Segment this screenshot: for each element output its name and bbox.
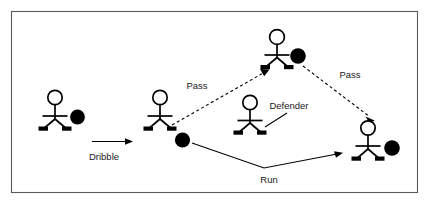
pass-down-label: Pass	[339, 69, 360, 80]
foot-right-shape	[62, 127, 72, 131]
ball-icon	[384, 140, 400, 156]
foot-left-shape	[144, 127, 154, 131]
ball-icon	[70, 110, 85, 125]
defender-label: Defender	[269, 100, 308, 111]
foot-right-shape	[167, 127, 177, 131]
play-diagram: Dribble Pass	[0, 0, 432, 212]
head-icon	[243, 95, 257, 109]
head-icon	[153, 90, 167, 104]
head-icon	[361, 121, 375, 135]
foot-left-shape	[261, 65, 271, 69]
foot-right-shape	[257, 131, 267, 135]
ball-icon	[290, 48, 306, 64]
ball-icon	[175, 132, 190, 147]
run-label: Run	[260, 174, 277, 185]
head-icon	[270, 30, 285, 45]
foot-left-shape	[352, 157, 362, 161]
foot-right-shape	[375, 157, 385, 161]
foot-right-shape	[284, 65, 294, 69]
foot-left-shape	[234, 131, 244, 135]
foot-left-shape	[39, 127, 49, 131]
diagram-canvas: Dribble Pass	[0, 0, 432, 212]
dribble-label: Dribble	[89, 151, 119, 162]
pass-up-label: Pass	[186, 80, 207, 91]
diagram-frame	[12, 12, 418, 193]
head-icon	[48, 90, 62, 104]
